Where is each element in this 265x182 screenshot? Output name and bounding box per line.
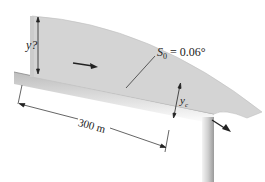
- slope-label: S0 = 0.06°: [157, 45, 206, 61]
- diagram-canvas: [0, 0, 265, 182]
- slope-value: = 0.06°: [167, 45, 206, 59]
- flow-direction-arrow-downstream: [212, 120, 231, 132]
- critical-depth-label: yc: [180, 94, 188, 109]
- support-post: [202, 117, 214, 182]
- critical-depth-subscript: c: [185, 101, 188, 109]
- upstream-depth-label: y?: [26, 38, 37, 53]
